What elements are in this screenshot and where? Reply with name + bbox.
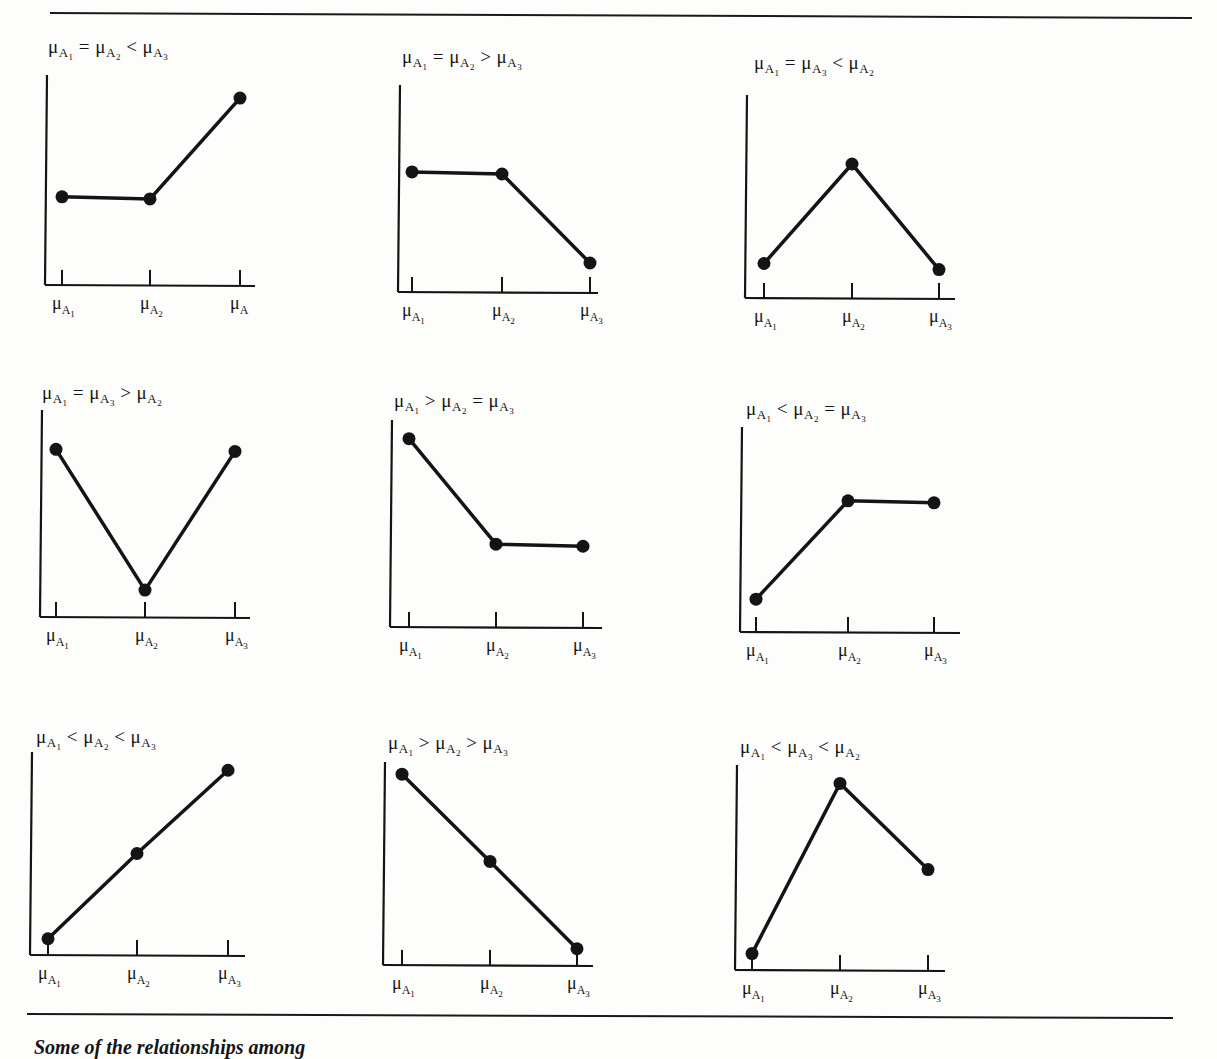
- x-tick-label: μA2: [830, 978, 853, 1004]
- data-point: [834, 777, 847, 790]
- data-line: [752, 783, 928, 953]
- x-axis: [735, 970, 945, 971]
- figure-caption: Some of the relationships among: [34, 1036, 305, 1059]
- x-tick-label: μA3: [918, 978, 941, 1004]
- x-tick-label: μA1: [742, 978, 765, 1004]
- data-point: [746, 947, 759, 960]
- y-axis: [735, 765, 737, 970]
- data-point: [922, 863, 935, 876]
